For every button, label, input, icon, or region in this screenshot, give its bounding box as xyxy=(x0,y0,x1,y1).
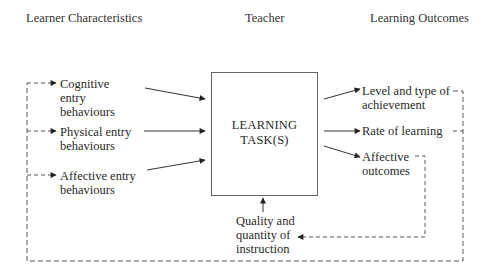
arrow-task-to-affective-outcomes xyxy=(324,146,360,157)
arrow-task-to-achievement xyxy=(324,89,360,99)
arrow-cognitive-to-task xyxy=(145,88,205,99)
output-level-type-achievement: Level and type of achievement xyxy=(362,84,450,112)
learning-task-label: LEARNING TASK(S) xyxy=(211,118,318,148)
arrow-affective-to-task xyxy=(147,160,205,170)
output-rate-of-learning: Rate of learning xyxy=(362,124,443,138)
input-cognitive-entry-behaviours: Cognitive entry behaviours xyxy=(60,77,115,119)
output-affective-outcomes: Affective outcomes xyxy=(362,150,410,178)
quality-quantity-instruction: Quality and quantity of instruction xyxy=(236,214,295,256)
input-physical-entry-behaviours: Physical entry behaviours xyxy=(60,125,131,153)
input-affective-entry-behaviours: Affective entry behaviours xyxy=(60,169,136,197)
